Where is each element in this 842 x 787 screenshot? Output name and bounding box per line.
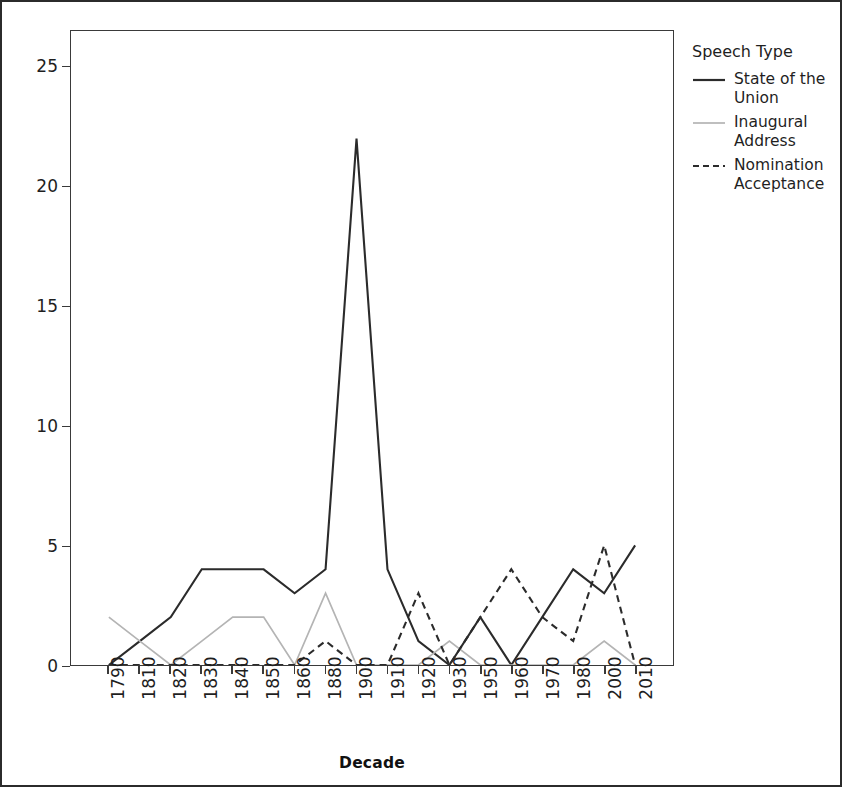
legend-swatch-solid-light-icon	[692, 113, 726, 132]
x-tick-label: 1810	[139, 656, 159, 699]
y-tick-mark	[62, 186, 70, 188]
legend-item-1[interactable]: Inaugural Address	[692, 113, 842, 151]
y-tick-mark	[62, 426, 70, 428]
legend-item-0[interactable]: State of the Union	[692, 70, 842, 108]
plot-series-svg	[71, 31, 673, 665]
y-tick-mark	[62, 666, 70, 668]
chart-figure: 2520151050 17901810182018301840185018601…	[0, 0, 842, 787]
y-tick-label: 25	[36, 58, 58, 74]
y-tick-mark	[62, 66, 70, 68]
x-tick-label: 1930	[450, 656, 470, 699]
x-tick-label: 1860	[294, 656, 314, 699]
legend-label-0: State of the Union	[734, 70, 825, 108]
x-tick-label: 1910	[388, 656, 408, 699]
y-tick-label: 10	[36, 418, 58, 434]
legend-label-2: Nomination Acceptance	[734, 156, 824, 194]
x-tick-label: 1970	[543, 656, 563, 699]
figure-inner: 2520151050 17901810182018301840185018601…	[2, 2, 842, 787]
x-tick-label: 1850	[263, 656, 283, 699]
legend-title: Speech Type	[692, 42, 842, 61]
series-line-2	[109, 545, 635, 665]
x-tick-label: 2000	[605, 656, 625, 699]
y-tick-label: 20	[36, 178, 58, 194]
y-tick-mark	[62, 306, 70, 308]
y-tick-label: 5	[47, 538, 58, 554]
x-tick-label: 1840	[232, 656, 252, 699]
legend-swatch-solid-icon	[692, 70, 726, 89]
x-tick-label: 1900	[356, 656, 376, 699]
legend-item-2[interactable]: Nomination Acceptance	[692, 156, 842, 194]
y-tick-label: 0	[47, 658, 58, 674]
x-tick-label: 1980	[574, 656, 594, 699]
x-tick-label: 2010	[636, 656, 656, 699]
plot-panel	[70, 30, 674, 666]
series-line-0	[109, 139, 635, 665]
y-tick-label: 15	[36, 298, 58, 314]
legend-swatch-dashed-icon	[692, 156, 726, 175]
legend: Speech Type State of the UnionInaugural …	[692, 42, 842, 199]
x-tick-label: 1920	[419, 656, 439, 699]
x-tick-label: 1790	[108, 656, 128, 699]
x-tick-label: 1880	[325, 656, 345, 699]
y-tick-mark	[62, 546, 70, 548]
x-axis-title: Decade	[70, 754, 674, 772]
y-axis: 2520151050	[2, 30, 70, 666]
x-tick-label: 1960	[512, 656, 532, 699]
x-tick-label: 1830	[201, 656, 221, 699]
x-tick-label: 1820	[170, 656, 190, 699]
legend-items: State of the UnionInaugural AddressNomin…	[692, 70, 842, 194]
x-tick-label: 1950	[481, 656, 501, 699]
legend-label-1: Inaugural Address	[734, 113, 808, 151]
